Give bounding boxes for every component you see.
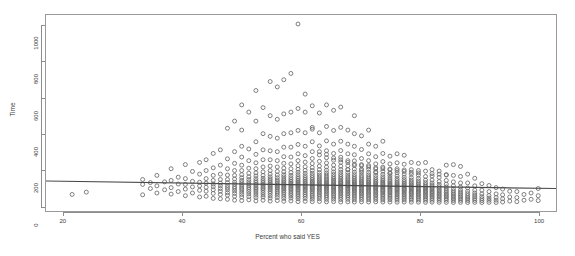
scatter-plot-figure: 02004006008001000 20406080100 Time Perce… <box>0 0 575 256</box>
y-axis-tick <box>41 207 45 208</box>
x-axis-title: Percent who said YES <box>0 233 575 240</box>
fit-line-segment <box>46 181 556 189</box>
regression-line <box>46 15 556 211</box>
y-axis-tick-label: 800 <box>33 60 39 98</box>
y-axis-tick-label: 400 <box>33 133 39 171</box>
plot-panel <box>45 14 557 212</box>
y-axis-line <box>41 25 42 207</box>
y-axis-title: Time <box>9 80 16 140</box>
x-axis-tick-label: 20 <box>43 218 83 224</box>
x-axis-tick-label: 100 <box>519 218 559 224</box>
x-axis-tick-label: 80 <box>400 218 440 224</box>
x-axis-line <box>63 212 539 213</box>
x-axis-tick <box>539 212 540 216</box>
y-axis-tick-label: 1000 <box>33 24 39 62</box>
y-axis-tick-label: 200 <box>33 169 39 207</box>
x-axis-tick-label: 60 <box>281 218 321 224</box>
y-axis-tick-label: 600 <box>33 97 39 135</box>
x-axis-tick-label: 40 <box>162 218 202 224</box>
